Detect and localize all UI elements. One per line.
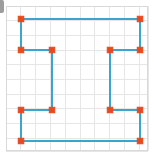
vertex-marker: [137, 107, 143, 113]
vertex-marker: [18, 16, 24, 22]
vertex-marker: [107, 107, 113, 113]
vertex-marker: [49, 107, 55, 113]
vertex-marker: [49, 47, 55, 53]
polygon-plot: [0, 0, 154, 157]
vertex-marker: [107, 47, 113, 53]
vertex-marker: [18, 138, 24, 144]
plot-background: [6, 6, 148, 151]
vertex-marker: [18, 47, 24, 53]
vertex-marker: [137, 47, 143, 53]
vertex-marker: [137, 16, 143, 22]
vertex-marker: [18, 107, 24, 113]
screenshot-root: [0, 0, 154, 157]
vertex-marker: [137, 138, 143, 144]
